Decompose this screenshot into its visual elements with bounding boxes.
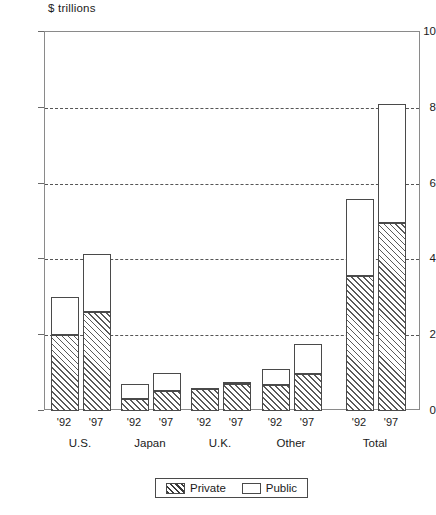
x-axis-year-label: '97 — [384, 416, 398, 428]
bar-us-97 — [83, 254, 111, 411]
bar-other-92 — [262, 369, 290, 411]
y-axis-tick-mark — [38, 31, 44, 32]
y-axis-tick-label: 4 — [402, 252, 436, 264]
y-axis-tick-label: 0 — [402, 404, 436, 416]
bar-total-92 — [346, 199, 374, 411]
legend-item-public: Public — [242, 482, 297, 494]
bar-segment-public — [51, 297, 79, 335]
x-axis-year-label: '92 — [352, 416, 366, 428]
plot-area — [44, 31, 420, 410]
x-axis-group-label: U.K. — [209, 437, 231, 449]
legend-item-private: Private — [166, 482, 226, 494]
x-axis-year-label: '92 — [197, 416, 211, 428]
bar-japan-97 — [153, 373, 181, 411]
bar-segment-public — [83, 254, 111, 313]
x-axis-year-label: '97 — [229, 416, 243, 428]
chart-legend: PrivatePublic — [155, 478, 308, 498]
y-axis-tick-label: 2 — [402, 328, 436, 340]
y-axis-tick-label: 8 — [402, 101, 436, 113]
x-axis-group-label: Total — [363, 437, 387, 449]
legend-swatch-private — [166, 483, 185, 494]
bar-other-97 — [294, 344, 322, 411]
y-axis-tick-label: 10 — [402, 25, 436, 37]
x-axis-group-label: Other — [277, 437, 306, 449]
bar-segment-private — [223, 384, 251, 411]
y-axis-tick-label: 6 — [402, 177, 436, 189]
bar-uk-97 — [223, 382, 251, 411]
bar-segment-private — [83, 312, 111, 411]
bar-segment-private — [262, 385, 290, 411]
x-axis-year-label: '92 — [57, 416, 71, 428]
legend-swatch-public — [242, 483, 261, 494]
gridline — [45, 184, 419, 185]
gridline — [45, 108, 419, 109]
x-axis-group-label: Japan — [134, 437, 165, 449]
bar-segment-private — [153, 391, 181, 411]
legend-label: Public — [266, 482, 297, 494]
x-axis-year-label: '97 — [89, 416, 103, 428]
x-axis-year-label: '92 — [268, 416, 282, 428]
bar-segment-private — [121, 399, 149, 411]
y-axis-tick-mark — [38, 107, 44, 108]
bar-segment-public — [346, 199, 374, 277]
bar-segment-private — [294, 374, 322, 411]
bar-segment-private — [191, 389, 219, 411]
y-axis-tick-mark — [38, 258, 44, 259]
y-axis-tick-mark — [38, 183, 44, 184]
bar-segment-private — [346, 276, 374, 411]
bar-segment-public — [121, 384, 149, 399]
y-axis-unit-label: $ trillions — [48, 2, 96, 14]
bar-japan-92 — [121, 384, 149, 411]
bar-segment-public — [262, 369, 290, 386]
y-axis-tick-mark — [38, 334, 44, 335]
y-axis-tick-mark — [38, 410, 44, 411]
x-axis-year-label: '97 — [159, 416, 173, 428]
bar-us-92 — [51, 297, 79, 411]
bar-segment-public — [378, 104, 406, 223]
bar-segment-public — [153, 373, 181, 391]
legend-label: Private — [190, 482, 226, 494]
bar-segment-private — [51, 335, 79, 411]
x-axis-year-label: '97 — [300, 416, 314, 428]
bar-segment-public — [294, 344, 322, 374]
x-axis-year-label: '92 — [127, 416, 141, 428]
bar-uk-92 — [191, 388, 219, 411]
bar-chart: $ trillions 0246810 '92'97U.S.'92'97Japa… — [0, 0, 436, 515]
x-axis-group-label: U.S. — [69, 437, 91, 449]
